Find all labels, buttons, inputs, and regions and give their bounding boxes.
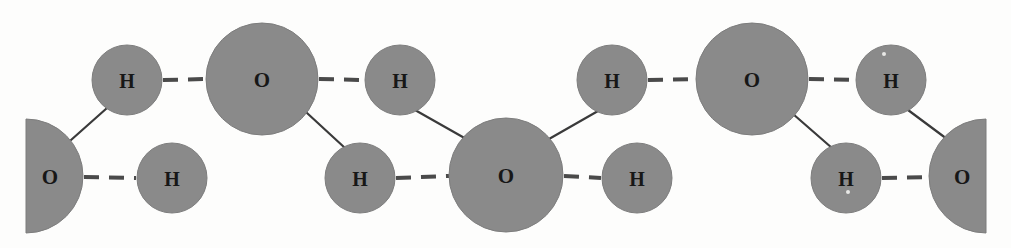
- covalent-bond: [549, 111, 598, 139]
- covalent-bond: [307, 113, 345, 148]
- covalent-bond: [71, 108, 107, 140]
- atom-label-o: O: [254, 68, 270, 92]
- atom-h: H: [856, 45, 926, 115]
- atom-label-h: H: [883, 70, 899, 92]
- atom-o: O: [449, 118, 563, 232]
- atom-o: O: [929, 119, 986, 233]
- atom-label-h: H: [392, 70, 408, 92]
- hydrogen-bond: [319, 79, 364, 80]
- scan-artifact-speck: [882, 52, 886, 56]
- scan-artifact-speck: [846, 190, 850, 194]
- hydrogen-bond: [882, 177, 930, 178]
- molecule-diagram-canvas: OHHOHHOHHOHHO: [0, 0, 1011, 248]
- hydrogen-bond-network-svg: OHHOHHOHHOHHO: [0, 0, 1011, 248]
- covalent-bond: [908, 110, 947, 139]
- atom-h: H: [325, 143, 395, 213]
- atom-label-h: H: [119, 70, 135, 92]
- atom-h: H: [137, 143, 207, 213]
- atom-label-o: O: [954, 165, 970, 189]
- atom-o: O: [206, 23, 318, 135]
- atom-layer: OHHOHHOHHOHHO: [26, 23, 986, 233]
- hydrogen-bond: [564, 176, 601, 178]
- atom-h: H: [602, 143, 672, 213]
- covalent-bond: [415, 110, 468, 140]
- atom-label-o: O: [744, 68, 760, 92]
- hydrogen-bond: [163, 79, 206, 80]
- hydrogen-bond: [809, 79, 855, 80]
- atom-label-h: H: [629, 168, 645, 190]
- atom-label-o: O: [42, 165, 58, 189]
- atom-h: H: [577, 45, 647, 115]
- hydrogen-bond: [648, 79, 695, 80]
- atom-label-o: O: [498, 164, 514, 188]
- hydrogen-bond: [396, 176, 449, 178]
- atom-h: H: [365, 45, 435, 115]
- hydrogen-bond: [84, 177, 136, 178]
- atom-label-h: H: [352, 168, 368, 190]
- atom-h: H: [811, 143, 881, 213]
- atom-label-h: H: [164, 168, 180, 190]
- covalent-bond: [793, 114, 832, 148]
- atom-o: O: [696, 23, 808, 135]
- atom-label-h: H: [838, 168, 854, 190]
- atom-h: H: [92, 45, 162, 115]
- atom-label-h: H: [604, 70, 620, 92]
